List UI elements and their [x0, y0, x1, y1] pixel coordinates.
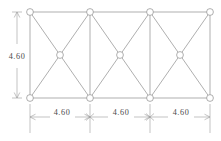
node-bottom-4: [207, 95, 214, 102]
node-bottom-3: [147, 95, 154, 102]
node-top-1: [27, 9, 34, 16]
node-center-2: [117, 52, 124, 59]
node-center-3: [177, 52, 184, 59]
diagram-background: [0, 0, 221, 141]
node-bottom-1: [27, 95, 34, 102]
node-center-1: [57, 52, 64, 59]
node-top-4: [207, 9, 214, 16]
node-bottom-2: [87, 95, 94, 102]
node-top-3: [147, 9, 154, 16]
horizontal-dimension-label-3: 4.60: [173, 108, 190, 117]
vertical-dimension-label: 4.60: [9, 52, 26, 61]
truss-elevation-diagram: 4.60 4.60 4.60 4.60: [0, 0, 221, 141]
node-top-2: [87, 9, 94, 16]
horizontal-dimension-label-2: 4.60: [113, 108, 130, 117]
horizontal-dimension-label-1: 4.60: [54, 108, 71, 117]
